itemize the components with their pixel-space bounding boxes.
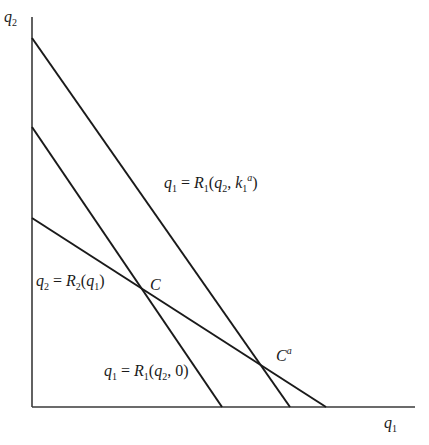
y-axis-label: q2 xyxy=(4,8,17,28)
curve-label-r1-ka: q1=R1(q2,k1a) xyxy=(164,172,258,194)
point-label-ca: Ca xyxy=(276,345,292,364)
x-axis-label: q1 xyxy=(384,414,397,434)
curve-label-r2: q2=R2(q1) xyxy=(36,272,104,292)
curve-label-r1-0: q1=R1(q2, 0) xyxy=(104,362,188,382)
reaction-function-diagram: q2 q1 q1=R1(q2,k1a) q2=R2(q1) q1=R1(q2, … xyxy=(0,0,429,445)
point-label-c: C xyxy=(150,276,161,293)
curve-r1-ka xyxy=(32,38,290,407)
